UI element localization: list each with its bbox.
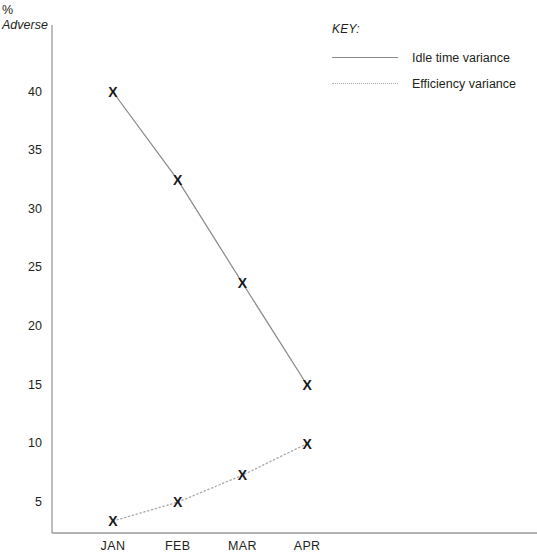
x-axis-tick-apr: APR bbox=[277, 539, 337, 553]
x-axis-tick-jan: JAN bbox=[83, 539, 143, 553]
y-axis-tick-35: 35 bbox=[8, 144, 42, 157]
legend-entry-efficiency-variance: Efficiency variance bbox=[330, 71, 535, 97]
chart-page: % Adverse 403530252015105 JANFEBMARAPR X… bbox=[0, 0, 537, 559]
y-axis-tick-5: 5 bbox=[8, 496, 42, 509]
chart-legend: KEY: Idle time variance Efficiency varia… bbox=[330, 22, 535, 97]
y-axis-tick-30: 30 bbox=[8, 203, 42, 216]
legend-label-idle-time-variance: Idle time variance bbox=[400, 51, 510, 65]
legend-label-efficiency-variance: Efficiency variance bbox=[400, 77, 516, 91]
y-axis-tick-25: 25 bbox=[8, 261, 42, 274]
series-line-idle-time-variance bbox=[113, 92, 307, 385]
legend-title: KEY: bbox=[332, 22, 535, 36]
legend-entry-idle-time-variance: Idle time variance bbox=[330, 45, 535, 71]
x-axis-tick-mar: MAR bbox=[212, 539, 272, 553]
y-axis-tick-40: 40 bbox=[8, 86, 42, 99]
x-axis-tick-feb: FEB bbox=[148, 539, 208, 553]
y-axis-tick-10: 10 bbox=[8, 437, 42, 450]
y-axis-tick-15: 15 bbox=[8, 379, 42, 392]
series-line-efficiency-variance bbox=[113, 444, 307, 521]
legend-line-sample-dotted-icon bbox=[330, 78, 400, 90]
y-axis-tick-20: 20 bbox=[8, 320, 42, 333]
legend-line-sample-solid-icon bbox=[330, 52, 400, 64]
